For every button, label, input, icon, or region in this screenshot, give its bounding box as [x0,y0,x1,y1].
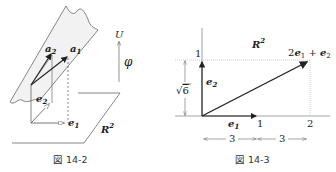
label-e1: e1 [228,118,239,131]
label-e2: e2 [206,76,217,89]
caption-fig-14-3: 図 14-3 [235,154,270,165]
x-tick-1: 1 [257,118,263,129]
vector-e2-arrow [31,104,49,123]
vector-sum-arrow [202,62,307,116]
dim-right-value: 3 [279,133,285,144]
label-R2-right: R2 [251,36,265,50]
label-e2: e2 [36,93,47,106]
figures-canvas: a2 a1 e2 e1 R2 U φ 図 14-2 [0,0,336,172]
x-tick-2: 2 [307,118,313,129]
dim-left-value: 3 [229,133,235,144]
figure-14-3: R2 1 1 2 e2 e1 2e1 + e2 √6 3 3 [175,28,331,165]
label-sum-vector: 2e1 + e2 [288,47,331,60]
caption-fig-14-2: 図 14-2 [53,154,88,165]
label-U: U [115,29,124,40]
label-R2-left: R2 [100,121,114,135]
figure-14-2: a2 a1 e2 e1 R2 U φ 図 14-2 [10,6,133,165]
y-tick-1: 1 [195,48,201,59]
label-phi: φ [124,55,133,69]
label-sqrt6: √6 [176,85,189,96]
label-e1: e1 [68,117,79,130]
